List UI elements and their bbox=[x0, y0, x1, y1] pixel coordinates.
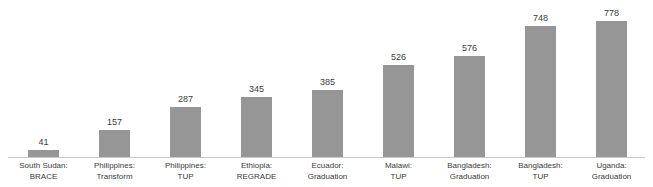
bar[interactable] bbox=[525, 26, 556, 157]
bar-group: 576 bbox=[434, 8, 505, 157]
bar[interactable] bbox=[241, 97, 272, 157]
category-label-line2: Transform bbox=[79, 171, 150, 182]
category-label-line1: Bangladesh: bbox=[518, 161, 562, 170]
bar-value-label: 157 bbox=[79, 117, 150, 128]
bar-group: 287 bbox=[150, 8, 221, 157]
category-axis: South Sudan:BRACEPhilippines:TransformPh… bbox=[8, 160, 645, 187]
bar-group: 526 bbox=[363, 8, 434, 157]
bar[interactable] bbox=[28, 150, 59, 157]
category-label-line1: Ecuador: bbox=[311, 161, 343, 170]
category-label-line2: TUP bbox=[363, 171, 434, 182]
category-label: Ethiopia:REGRADE bbox=[221, 160, 292, 182]
bar-value-label: 748 bbox=[505, 13, 576, 24]
category-label-line1: Philippines: bbox=[165, 161, 206, 170]
category-label: Philippines:Transform bbox=[79, 160, 150, 182]
bar[interactable] bbox=[383, 65, 414, 157]
category-label: Bangladesh:Graduation bbox=[434, 160, 505, 182]
category-label-line1: Ethiopia: bbox=[241, 161, 272, 170]
bar-chart: 41157287345385526576748778 South Sudan:B… bbox=[0, 0, 653, 187]
category-label: Ecuador:Graduation bbox=[292, 160, 363, 182]
bar-group: 345 bbox=[221, 8, 292, 157]
category-label: Philippines:TUP bbox=[150, 160, 221, 182]
category-label-line1: Philippines: bbox=[94, 161, 135, 170]
category-label: Bangladesh:TUP bbox=[505, 160, 576, 182]
bar-value-label: 778 bbox=[576, 8, 647, 19]
bar-group: 748 bbox=[505, 8, 576, 157]
bar[interactable] bbox=[170, 107, 201, 157]
bar[interactable] bbox=[596, 21, 627, 157]
bar-value-label: 576 bbox=[434, 43, 505, 54]
category-label-line1: Uganda: bbox=[596, 161, 626, 170]
bar[interactable] bbox=[454, 56, 485, 157]
bar-group: 385 bbox=[292, 8, 363, 157]
category-label: Malawi:TUP bbox=[363, 160, 434, 182]
bar-value-label: 287 bbox=[150, 94, 221, 105]
bar-group: 41 bbox=[8, 8, 79, 157]
category-label: Uganda:Graduation bbox=[576, 160, 647, 182]
category-label-line1: Bangladesh: bbox=[447, 161, 491, 170]
category-label-line2: TUP bbox=[505, 171, 576, 182]
category-label-line2: Graduation bbox=[576, 171, 647, 182]
bar[interactable] bbox=[312, 90, 343, 157]
bar-group: 157 bbox=[79, 8, 150, 157]
category-label-line1: Malawi: bbox=[385, 161, 412, 170]
plot-area: 41157287345385526576748778 bbox=[8, 8, 645, 157]
bar-group: 778 bbox=[576, 8, 647, 157]
bar-value-label: 385 bbox=[292, 77, 363, 88]
category-label-line2: BRACE bbox=[8, 171, 79, 182]
category-label-line2: Graduation bbox=[292, 171, 363, 182]
x-axis-line bbox=[8, 157, 645, 158]
category-label-line2: REGRADE bbox=[221, 171, 292, 182]
category-label-line2: TUP bbox=[150, 171, 221, 182]
bar-value-label: 345 bbox=[221, 84, 292, 95]
category-label-line2: Graduation bbox=[434, 171, 505, 182]
bar[interactable] bbox=[99, 130, 130, 157]
category-label-line1: South Sudan: bbox=[19, 161, 67, 170]
bar-value-label: 41 bbox=[8, 137, 79, 148]
category-label: South Sudan:BRACE bbox=[8, 160, 79, 182]
bar-value-label: 526 bbox=[363, 52, 434, 63]
